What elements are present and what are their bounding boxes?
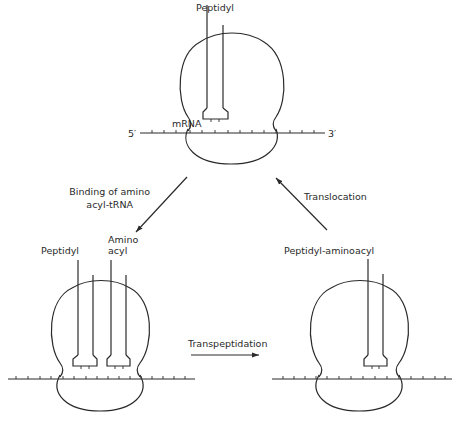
label-mrna: mRNA	[172, 118, 202, 129]
small-subunit	[57, 375, 143, 411]
ribosome-cycle-diagram: Peptidyl mRNA 5′ 3′	[0, 0, 460, 421]
large-subunit	[180, 33, 284, 131]
label-amino: Amino	[108, 234, 138, 245]
peptidyl-trna	[73, 260, 97, 369]
aminoacyl-trna	[107, 260, 130, 369]
step-translocation: Translocation	[276, 178, 367, 230]
arrow-translocation-icon	[276, 178, 327, 230]
small-subunit	[316, 375, 402, 411]
label-peptidyl-aminoacyl: Peptidyl-aminoacyl	[284, 245, 374, 256]
label-5-prime: 5′	[128, 128, 136, 139]
ribosome-bottom-right: Peptidyl-aminoacyl	[272, 245, 452, 411]
step-transpeptidation: Transpeptidation	[187, 338, 267, 355]
step-binding: Binding of amino acyl-tRNA	[69, 177, 187, 232]
label-peptidyl-left: Peptidyl	[41, 245, 79, 256]
label-transpeptidation: Transpeptidation	[187, 338, 267, 349]
label-translocation: Translocation	[303, 191, 367, 202]
label-peptidyl-top: Peptidyl	[196, 2, 234, 13]
peptidyl-trna	[203, 5, 228, 122]
large-subunit	[51, 281, 149, 378]
small-subunit	[186, 129, 277, 164]
label-binding-line1: Binding of amino	[69, 186, 150, 197]
label-binding-line2: acyl-tRNA	[86, 199, 133, 210]
peptidyl-aminoacyl-trna	[364, 259, 387, 369]
ribosome-bottom-left: Peptidyl Amino acyl	[8, 234, 195, 411]
ribosome-top: Peptidyl mRNA 5′ 3′	[128, 2, 336, 164]
label-3-prime: 3′	[328, 128, 336, 139]
label-acyl: acyl	[108, 245, 127, 256]
large-subunit	[310, 281, 408, 378]
